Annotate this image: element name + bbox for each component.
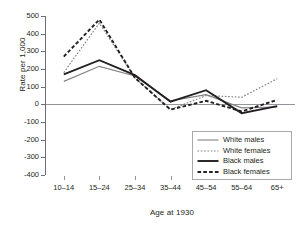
legend-item-label: White males	[223, 136, 264, 144]
y-axis-tick	[41, 104, 45, 105]
x-axis-tick	[64, 176, 65, 180]
y-axis-tick	[41, 175, 45, 176]
legend-item-label: Black females	[223, 168, 270, 176]
legend-line-swatch	[197, 156, 219, 166]
x-axis-tick-label: 65+	[255, 184, 299, 192]
chart-legend: White malesWhite femalesBlack malesBlack…	[192, 131, 292, 180]
legend-line-swatch	[197, 167, 219, 177]
y-axis-tick	[41, 157, 45, 158]
legend-line-swatch	[197, 146, 219, 156]
chart-figure: Rate per 1,000 5004003002001000-100-200-…	[0, 0, 303, 234]
series-line-white-females	[64, 23, 277, 110]
y-axis-tick-label: -100	[0, 118, 39, 126]
y-axis-tick	[41, 69, 45, 70]
y-axis-tick-label: 100	[0, 83, 39, 91]
legend-line-swatch	[197, 135, 219, 145]
y-axis-tick-label: -200	[0, 136, 39, 144]
y-axis-tick	[41, 34, 45, 35]
x-axis-tick	[135, 176, 136, 180]
y-axis-tick-label: 0	[0, 100, 39, 108]
legend-item-label: White females	[223, 147, 271, 155]
y-axis-tick	[41, 122, 45, 123]
series-line-black-females	[64, 20, 277, 112]
y-axis-tick-label: 500	[0, 12, 39, 20]
y-axis-tick-label: -400	[0, 171, 39, 179]
x-axis-tick	[171, 176, 172, 180]
y-axis-tick-label: 400	[0, 30, 39, 38]
y-axis-tick-label: 300	[0, 47, 39, 55]
legend-item-white-females[interactable]: White females	[197, 146, 287, 157]
legend-item-white-males[interactable]: White males	[197, 135, 287, 146]
y-axis-tick-label: 200	[0, 65, 39, 73]
y-axis-tick	[41, 140, 45, 141]
y-axis-tick	[41, 87, 45, 88]
y-axis-tick	[41, 51, 45, 52]
x-axis-title: Age at 1930	[44, 208, 300, 217]
legend-item-black-females[interactable]: Black females	[197, 167, 287, 178]
legend-item-label: Black males	[223, 157, 263, 165]
x-axis-tick	[99, 176, 100, 180]
y-axis-tick-label: -300	[0, 153, 39, 161]
legend-item-black-males[interactable]: Black males	[197, 156, 287, 167]
y-axis-tick	[41, 16, 45, 17]
